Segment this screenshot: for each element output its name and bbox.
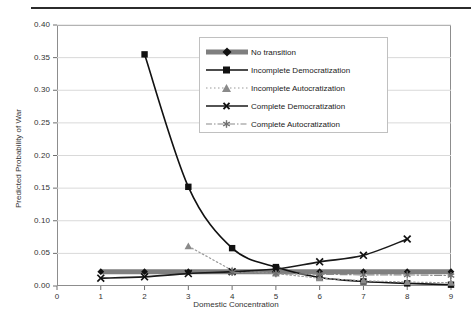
legend-label: Incomplete Autocratization <box>249 84 345 93</box>
legend-item-no-transition: No transition <box>200 43 387 61</box>
legend-key-icon <box>205 99 249 113</box>
y-tick-label: 0.15 <box>6 183 50 192</box>
x-tick-label: 0 <box>45 292 69 301</box>
data-point-marker <box>185 242 193 249</box>
legend-item-complete-democratization: Complete Democratization <box>200 97 387 115</box>
y-tick-label: 0.00 <box>6 281 50 290</box>
y-tick-label: 0.30 <box>6 85 50 94</box>
x-tick-label: 2 <box>133 292 157 301</box>
legend-swatch-incomplete-democratization <box>205 63 249 77</box>
legend-item-incomplete-democratization: Incomplete Democratization <box>200 61 387 79</box>
data-point-marker <box>185 184 191 190</box>
x-tick-label: 7 <box>351 292 375 301</box>
legend-swatch-no-transition <box>205 45 249 59</box>
legend-swatch-complete-autocratization <box>205 117 249 131</box>
y-tick-label: 0.10 <box>6 216 50 225</box>
x-tick-label: 8 <box>395 292 419 301</box>
y-tick-label: 0.25 <box>6 118 50 127</box>
series-incomplete-autocratization <box>185 242 455 285</box>
legend-label: No transition <box>249 48 296 57</box>
data-point-marker <box>141 51 147 57</box>
legend-key-icon <box>205 63 249 77</box>
legend-key-icon <box>205 117 249 131</box>
legend-label: Complete Autocratization <box>249 120 340 129</box>
y-tick-label: 0.35 <box>6 53 50 62</box>
legend-key-icon <box>205 45 249 59</box>
legend-label: Incomplete Democratization <box>249 66 350 75</box>
x-axis-label: Domestic Concentration <box>0 300 472 309</box>
legend-item-complete-autocratization: Complete Autocratization <box>200 115 387 133</box>
legend-key-icon <box>205 81 249 95</box>
legend-swatch-incomplete-autocratization <box>205 81 249 95</box>
y-tick-label: 0.20 <box>6 151 50 160</box>
x-tick-label: 9 <box>439 292 463 301</box>
legend-item-incomplete-autocratization: Incomplete Autocratization <box>200 79 387 97</box>
y-tick-label: 0.40 <box>6 20 50 29</box>
chart-figure: Predicted Probability of War Domestic Co… <box>0 0 472 319</box>
data-point-marker <box>404 236 411 243</box>
legend-label: Complete Democratization <box>249 102 345 111</box>
data-point-marker <box>229 245 235 251</box>
legend-swatch-complete-democratization <box>205 99 249 113</box>
x-tick-label: 3 <box>176 292 200 301</box>
x-tick-label: 6 <box>308 292 332 301</box>
chart-legend: No transition Incomplete Democratization… <box>199 37 388 133</box>
x-tick-label: 4 <box>220 292 244 301</box>
x-tick-label: 1 <box>89 292 113 301</box>
y-tick-label: 0.05 <box>6 248 50 257</box>
x-tick-label: 5 <box>264 292 288 301</box>
